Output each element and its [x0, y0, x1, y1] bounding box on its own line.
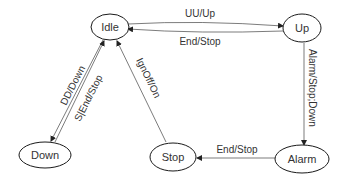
svg-text:Stop: Stop: [162, 151, 185, 163]
state-alarm: Alarm: [275, 145, 329, 173]
state-diagram: UU/Up End/Stop DD/Down S|End/Stop IgnOff…: [0, 0, 345, 179]
transition-idle-to-up: UU/Up: [128, 8, 283, 26]
svg-text:Alarm: Alarm: [288, 153, 317, 165]
transition-alarm-to-stop: End/Stop: [197, 144, 275, 158]
svg-text:End/Stop: End/Stop: [179, 36, 221, 47]
transition-up-to-alarm: Alarm/Stop;Down: [304, 43, 318, 145]
state-down: Down: [19, 142, 71, 168]
svg-text:Down: Down: [31, 149, 59, 161]
svg-text:Alarm/Stop;Down: Alarm/Stop;Down: [307, 49, 318, 127]
state-up: Up: [283, 14, 321, 42]
svg-text:Up: Up: [295, 22, 309, 34]
svg-text:UU/Up: UU/Up: [185, 8, 215, 19]
svg-text:End/Stop: End/Stop: [216, 144, 258, 155]
svg-text:IgnOff/On: IgnOff/On: [134, 56, 163, 100]
state-stop: Stop: [150, 143, 196, 171]
svg-text:Idle: Idle: [101, 21, 119, 33]
state-idle: Idle: [91, 14, 129, 40]
transition-up-to-idle: End/Stop: [128, 29, 283, 47]
transition-stop-to-idle: IgnOff/On: [117, 41, 166, 142]
